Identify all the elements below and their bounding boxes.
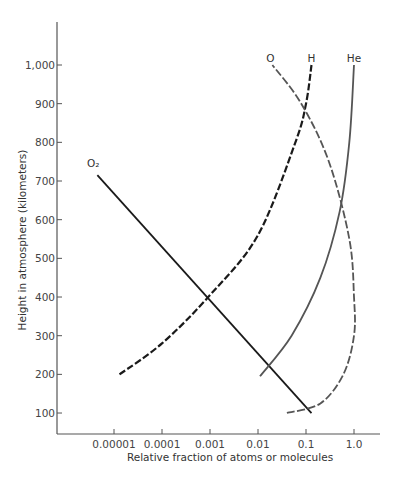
x-axis-title: Relative fraction of atoms or molecules bbox=[127, 451, 333, 463]
series-layer bbox=[97, 65, 355, 413]
series-label-o2: O₂ bbox=[87, 157, 99, 169]
y-tick-label: 1,000 bbox=[25, 59, 55, 71]
series-label-he: He bbox=[347, 52, 361, 64]
series-line-he bbox=[260, 65, 354, 376]
atmosphere-composition-chart: 1002003004005006007008009001,0000.000010… bbox=[0, 0, 395, 486]
y-tick-label: 900 bbox=[35, 98, 55, 110]
series-line-o bbox=[272, 65, 355, 413]
y-tick-label: 700 bbox=[35, 175, 55, 187]
series-line-o2 bbox=[97, 175, 311, 413]
y-tick-label: 600 bbox=[35, 214, 55, 226]
x-tick-label: 0.0001 bbox=[144, 438, 181, 450]
x-tick-label: 0.00001 bbox=[92, 438, 135, 450]
y-tick-label: 800 bbox=[35, 136, 55, 148]
y-tick-label: 500 bbox=[35, 252, 55, 264]
x-tick-label: 0.01 bbox=[246, 438, 269, 450]
y-tick-label: 100 bbox=[35, 407, 55, 419]
x-tick-label: 0.001 bbox=[195, 438, 225, 450]
series-label-o: O bbox=[266, 52, 274, 64]
axes: 1002003004005006007008009001,0000.000010… bbox=[16, 22, 380, 463]
y-tick-label: 400 bbox=[35, 291, 55, 303]
y-tick-label: 200 bbox=[35, 368, 55, 380]
y-axis-title: Height in atmosphere (kilometers) bbox=[16, 150, 28, 331]
series-line-h bbox=[120, 65, 312, 374]
x-tick-label: 1.0 bbox=[346, 438, 363, 450]
y-tick-label: 300 bbox=[35, 330, 55, 342]
series-label-h: H bbox=[308, 52, 316, 64]
labels-layer: O₂HHeO bbox=[87, 52, 361, 169]
x-tick-label: 0.1 bbox=[298, 438, 315, 450]
